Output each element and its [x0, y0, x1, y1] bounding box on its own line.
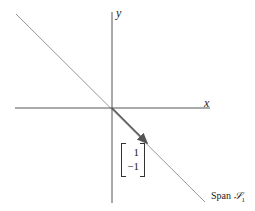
vector-arrow — [112, 108, 147, 143]
span-label-sub: 1 — [242, 196, 246, 204]
span-label-set: 𝒮 — [234, 190, 242, 201]
span-label: Span 𝒮1 — [211, 190, 245, 204]
left-bracket — [121, 143, 126, 177]
x-axis-label: x — [204, 96, 209, 111]
y-axis-label: y — [116, 6, 121, 21]
vector-component-1: 1 — [134, 145, 140, 159]
right-bracket — [140, 143, 145, 177]
vector-component-2: −1 — [127, 159, 139, 173]
span-label-prefix: Span — [211, 190, 234, 201]
diagram-canvas — [0, 0, 255, 211]
vector-label: 1 −1 — [121, 143, 145, 177]
